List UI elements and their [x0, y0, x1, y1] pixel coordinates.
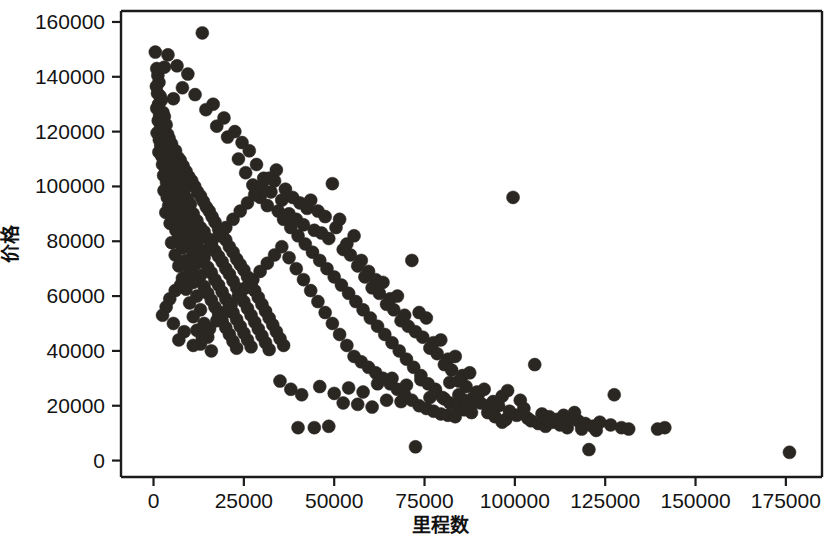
data-point	[443, 376, 456, 389]
x-tick-label: 125000	[570, 489, 640, 512]
data-point	[263, 343, 276, 356]
x-tick-label: 0	[148, 489, 160, 512]
data-point	[568, 406, 581, 419]
data-point	[171, 59, 184, 72]
data-point	[501, 384, 514, 397]
data-point	[337, 396, 350, 409]
data-point	[189, 88, 202, 101]
chart-canvas: 0250005000075000100000125000150000175000…	[0, 0, 829, 539]
y-tick-label: 140000	[35, 65, 105, 88]
data-point	[295, 388, 308, 401]
data-point	[158, 61, 171, 74]
data-point	[528, 358, 541, 371]
data-point	[582, 443, 595, 456]
data-point	[322, 420, 335, 433]
data-point	[380, 394, 393, 407]
data-point	[326, 177, 339, 190]
data-point	[297, 273, 310, 286]
data-point	[245, 340, 258, 353]
data-point	[328, 387, 341, 400]
data-point	[273, 375, 286, 388]
data-point	[434, 333, 447, 346]
data-point	[167, 92, 180, 105]
data-point	[658, 421, 671, 434]
data-point	[405, 254, 418, 267]
y-tick-label: 20000	[47, 394, 105, 417]
y-tick-label: 120000	[35, 120, 105, 143]
data-point	[366, 401, 379, 414]
data-point	[277, 339, 290, 352]
y-axis-title: 价格	[0, 224, 21, 263]
y-tick-label: 40000	[47, 339, 105, 362]
figure-background	[0, 0, 829, 539]
data-point	[275, 240, 288, 253]
x-tick-label: 25000	[215, 489, 273, 512]
x-tick-label: 175000	[751, 489, 821, 512]
data-point	[517, 402, 530, 415]
data-point	[232, 153, 245, 166]
data-point	[487, 395, 500, 408]
x-tick-label: 50000	[305, 489, 363, 512]
data-point	[221, 131, 234, 144]
x-tick-label: 100000	[480, 489, 550, 512]
data-point	[311, 295, 324, 308]
data-point	[156, 309, 169, 322]
data-point	[290, 262, 303, 275]
data-point	[230, 342, 243, 355]
data-point	[409, 440, 422, 453]
data-point	[210, 120, 223, 133]
data-point	[357, 386, 370, 399]
data-point	[351, 398, 364, 411]
data-point	[348, 229, 361, 242]
data-point	[176, 81, 189, 94]
data-point	[167, 317, 180, 330]
y-tick-label: 60000	[47, 284, 105, 307]
data-point	[326, 317, 339, 330]
data-point	[622, 423, 635, 436]
data-point	[283, 251, 296, 264]
data-point	[292, 421, 305, 434]
x-tick-label: 150000	[660, 489, 730, 512]
data-point	[342, 381, 355, 394]
data-point	[199, 103, 212, 116]
data-point	[196, 26, 209, 39]
data-point	[472, 387, 485, 400]
data-point	[333, 328, 346, 341]
data-point	[319, 210, 332, 223]
data-point	[465, 406, 478, 419]
data-point	[322, 232, 335, 245]
data-point	[783, 446, 796, 459]
y-tick-label: 0	[93, 449, 105, 472]
y-tick-label: 80000	[47, 229, 105, 252]
data-point	[420, 312, 433, 325]
scatter-plot-figure: 0250005000075000100000125000150000175000…	[0, 0, 829, 539]
data-point	[590, 424, 603, 437]
data-point	[463, 366, 476, 379]
data-point	[161, 48, 174, 61]
data-point	[449, 410, 462, 423]
x-tick-label: 75000	[395, 489, 453, 512]
data-point	[449, 350, 462, 363]
data-point	[250, 158, 263, 171]
data-point	[270, 163, 283, 176]
data-point	[205, 344, 218, 357]
x-axis-title: 里程数	[412, 514, 470, 536]
data-point	[391, 290, 404, 303]
data-point	[308, 421, 321, 434]
data-point	[319, 306, 332, 319]
data-point	[149, 46, 162, 59]
data-point	[496, 416, 509, 429]
data-point	[313, 380, 326, 393]
data-point	[340, 339, 353, 352]
y-tick-label: 100000	[35, 174, 105, 197]
y-tick-label: 160000	[35, 10, 105, 33]
data-point	[330, 221, 343, 234]
data-point	[608, 388, 621, 401]
data-point	[507, 191, 520, 204]
data-point	[239, 166, 252, 179]
data-point	[243, 144, 256, 157]
data-point	[172, 333, 185, 346]
data-point	[304, 284, 317, 297]
data-point	[181, 68, 194, 81]
